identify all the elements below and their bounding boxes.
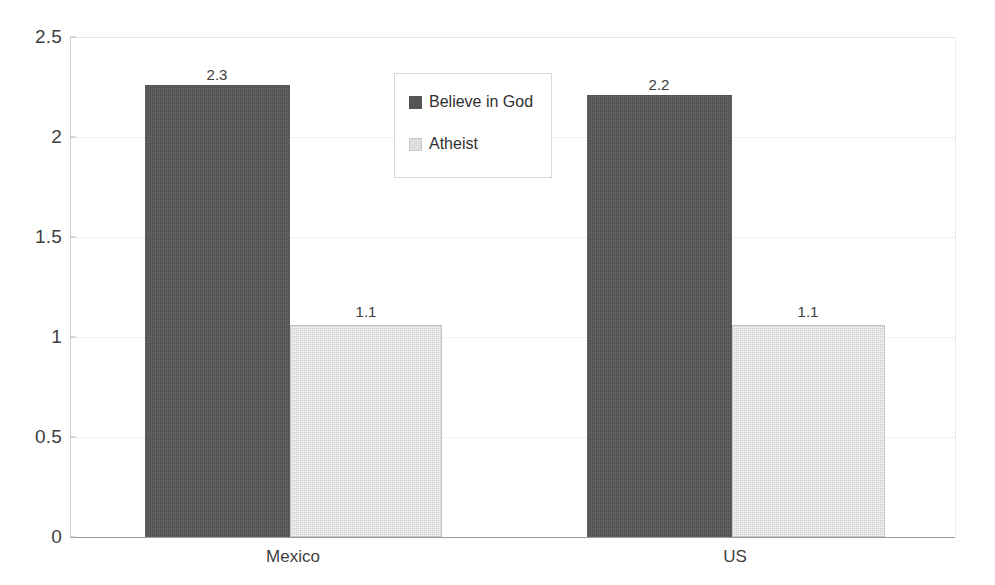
y-tick-mark-2-5 bbox=[70, 37, 76, 38]
gridline-2-5 bbox=[70, 37, 955, 38]
plot-right-border bbox=[955, 37, 956, 537]
y-tick-label-0-5: 0.5 bbox=[2, 426, 62, 448]
y-tick-mark-2 bbox=[70, 137, 76, 138]
legend-item-atheist[interactable]: Atheist bbox=[409, 134, 551, 154]
bar-us-believe-in-god[interactable] bbox=[587, 95, 732, 537]
legend-swatch-icon-believe-in-god bbox=[409, 96, 422, 109]
y-tick-mark-0-5 bbox=[70, 437, 76, 438]
y-tick-label-1-5: 1.5 bbox=[2, 226, 62, 248]
y-tick-mark-1-5 bbox=[70, 237, 76, 238]
y-axis-tick-labels: 2.5 2 1.5 1 0.5 0 bbox=[0, 0, 62, 585]
bar-value-label-us-atheist: 1.1 bbox=[798, 303, 819, 320]
legend-swatch-icon-atheist bbox=[409, 138, 422, 151]
y-axis-line bbox=[70, 37, 71, 537]
y-tick-label-2: 2 bbox=[2, 126, 62, 148]
bar-mexico-atheist[interactable] bbox=[290, 325, 442, 537]
x-tick-label-us: US bbox=[723, 547, 747, 567]
x-axis-line bbox=[70, 537, 955, 538]
y-tick-mark-0 bbox=[70, 537, 76, 538]
y-tick-mark-1 bbox=[70, 337, 76, 338]
bar-chart: 2.5 2 1.5 1 0.5 0 2.3 1.1 2.2 1.1 Mexico… bbox=[0, 0, 995, 585]
legend-item-believe-in-god[interactable]: Believe in God bbox=[409, 92, 551, 112]
bar-value-label-mexico-atheist: 1.1 bbox=[356, 303, 377, 320]
y-tick-label-2-5: 2.5 bbox=[2, 26, 62, 48]
y-tick-label-1: 1 bbox=[2, 326, 62, 348]
legend-label-believe-in-god: Believe in God bbox=[429, 94, 533, 110]
x-tick-label-mexico: Mexico bbox=[266, 547, 320, 567]
legend: Believe in God Atheist bbox=[394, 73, 552, 178]
bar-us-atheist[interactable] bbox=[732, 325, 885, 537]
bar-value-label-us-believe: 2.2 bbox=[649, 76, 670, 93]
bar-value-label-mexico-believe: 2.3 bbox=[207, 66, 228, 83]
legend-label-atheist: Atheist bbox=[429, 136, 478, 152]
y-tick-label-0: 0 bbox=[2, 526, 62, 548]
bar-mexico-believe-in-god[interactable] bbox=[145, 85, 290, 537]
